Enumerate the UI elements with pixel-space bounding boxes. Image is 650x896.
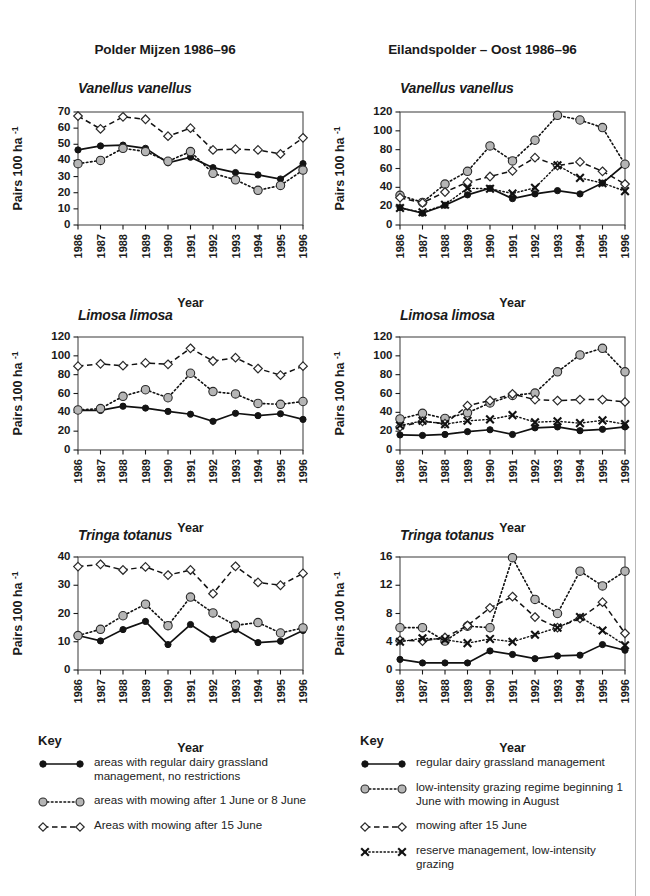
x-tick-label: 1994 — [252, 458, 264, 483]
data-point-x-marker — [599, 627, 607, 635]
chart-title-mijzen-vanellus: Vanellus vanellus — [78, 80, 192, 96]
x-tick-label: 1990 — [162, 459, 174, 483]
data-point-filled-circle — [577, 428, 583, 434]
data-point-open-diamond — [254, 364, 263, 373]
x-tick-label: 1995 — [597, 234, 609, 258]
data-point-grey-circle — [486, 142, 494, 150]
svg-text:Pairs 100 ha -1: Pairs 100 ha -1 — [10, 571, 26, 655]
x-tick-label: 1992 — [207, 459, 219, 483]
y-tick-label: 20 — [380, 199, 393, 211]
x-tick-label: 1989 — [462, 679, 474, 703]
data-point-grey-circle — [74, 159, 82, 167]
data-point-filled-circle — [187, 411, 193, 417]
data-point-filled-circle — [142, 618, 148, 624]
chart-svg-mijzen-limosa: 0204060801001201986198719881989199019911… — [0, 325, 325, 542]
y-tick-label: 0 — [386, 443, 392, 455]
key-item-label: areas with regular dairy grassland manag… — [94, 755, 333, 784]
data-point-open-diamond — [486, 172, 495, 181]
data-point-grey-circle — [553, 368, 561, 376]
x-tick-label: 1991 — [507, 459, 519, 483]
y-tick-label: 10 — [58, 635, 71, 647]
x-axis-title: Year — [177, 296, 204, 310]
data-point-filled-circle — [277, 638, 283, 644]
y-tick-label: 120 — [373, 330, 392, 342]
y-tick-label: 20 — [58, 186, 71, 198]
data-point-open-diamond — [74, 562, 83, 571]
y-tick-label: 40 — [380, 405, 393, 417]
data-point-grey-circle — [141, 386, 149, 394]
data-point-filled-circle — [255, 172, 261, 178]
chart-svg-eilandspolder-limosa: 0204060801001201986198719881989199019911… — [322, 325, 647, 542]
y-tick-label: 100 — [373, 349, 392, 361]
x-tick-label: 1988 — [117, 234, 129, 258]
x-tick-label: 1990 — [484, 234, 496, 258]
x-tick-label: 1987 — [95, 234, 107, 258]
data-point-filled-circle — [442, 431, 448, 437]
data-point-filled-circle — [577, 191, 583, 197]
data-point-grey-circle — [119, 144, 127, 152]
y-tick-label: 70 — [58, 105, 71, 117]
data-point-open-diamond — [254, 146, 263, 155]
x-tick-label: 1995 — [275, 234, 287, 258]
data-point-grey-circle — [531, 136, 539, 144]
y-tick-label: 20 — [58, 424, 71, 436]
data-point-filled-circle — [277, 411, 283, 417]
data-point-open-diamond — [74, 362, 83, 371]
data-point-open-diamond — [531, 613, 540, 622]
y-tick-label: 0 — [64, 443, 70, 455]
data-point-grey-circle — [231, 621, 239, 629]
key-item: regular dairy grassland management — [360, 755, 630, 771]
x-tick-label: 1993 — [552, 459, 564, 483]
data-point-open-diamond — [598, 395, 607, 404]
x-tick-label: 1992 — [529, 679, 541, 703]
data-point-grey-circle — [621, 368, 629, 376]
y-tick-label: 50 — [58, 137, 71, 149]
x-tick-label: 1992 — [529, 234, 541, 258]
x-tick-label: 1989 — [462, 459, 474, 483]
y-tick-label: 30 — [58, 170, 71, 182]
x-tick-label: 1994 — [574, 458, 586, 483]
x-axis-title: Year — [499, 521, 526, 535]
key-symbol-open-diamond-dashed-line — [360, 820, 412, 834]
data-point-open-diamond — [231, 562, 240, 571]
data-point-open-diamond — [141, 115, 150, 124]
y-tick-label: 40 — [380, 180, 393, 192]
series-0 — [397, 424, 628, 439]
key-item-symbol — [360, 755, 416, 771]
data-point-open-diamond — [299, 134, 308, 143]
data-point-filled-circle — [464, 429, 470, 435]
svg-text:Pairs 100 ha -1: Pairs 100 ha -1 — [10, 351, 26, 435]
y-tick-label: 8 — [386, 607, 393, 619]
y-tick-label: 40 — [58, 550, 71, 562]
y-axis-title: Pairs 100 ha -1 — [10, 351, 26, 435]
data-point-filled-circle — [142, 405, 148, 411]
x-tick-label: 1990 — [484, 679, 496, 703]
data-point-grey-circle — [276, 181, 284, 189]
y-axis-title: Pairs 100 ha -1 — [332, 126, 348, 210]
key-item-symbol — [38, 793, 94, 809]
data-point-grey-circle — [254, 186, 262, 194]
y-tick-label: 40 — [58, 405, 71, 417]
y-tick-label: 0 — [64, 218, 70, 230]
data-point-filled-circle — [464, 192, 470, 198]
x-tick-label: 1989 — [140, 679, 152, 703]
series-3 — [396, 613, 629, 649]
y-tick-label: 60 — [380, 387, 393, 399]
x-tick-label: 1991 — [185, 459, 197, 483]
series-2 — [396, 390, 630, 432]
key-left-title: Key — [38, 733, 333, 748]
data-point-open-diamond — [276, 371, 285, 380]
key-item-symbol — [38, 818, 94, 834]
y-tick-label: 10 — [58, 202, 71, 214]
series-line — [400, 348, 625, 419]
data-point-open-diamond — [621, 398, 630, 407]
x-tick-label: 1989 — [462, 234, 474, 258]
x-tick-label: 1988 — [439, 234, 451, 258]
data-point-grey-circle — [598, 344, 606, 352]
data-point-open-diamond — [299, 362, 308, 371]
data-point-grey-circle — [209, 609, 217, 617]
y-tick-label: 20 — [380, 424, 393, 436]
x-tick-label: 1986 — [394, 459, 406, 483]
y-tick-label: 40 — [58, 153, 71, 165]
y-tick-label: 30 — [58, 578, 71, 590]
